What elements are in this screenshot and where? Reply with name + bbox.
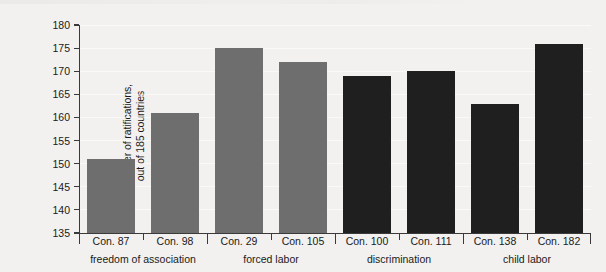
y-tick-label-175: 175 (52, 42, 70, 54)
y-tick-label-170: 170 (52, 65, 70, 77)
group-label-discrimination: discrimination (335, 253, 463, 265)
x-tick-label-con-29: Con. 29 (207, 235, 271, 247)
x-tick-label-con-111: Con. 111 (399, 235, 463, 247)
group-label-freedom-of-association: freedom of association (79, 253, 207, 265)
bar-con-111 (407, 71, 455, 233)
x-tick-label-con-98: Con. 98 (143, 235, 207, 247)
group-label-forced-labor: forced labor (207, 253, 335, 265)
y-tick-label-140: 140 (52, 204, 70, 216)
y-tick-label-165: 165 (52, 88, 70, 100)
y-tick-label-180: 180 (52, 19, 70, 31)
y-tick-label-155: 155 (52, 135, 70, 147)
x-axis-group-labels: freedom of associationforced labordiscri… (79, 253, 591, 269)
bar-chart-figure: number of ratifications, out of 185 coun… (0, 0, 606, 272)
x-tick-label-con-138: Con. 138 (463, 235, 527, 247)
bar-con-100 (343, 76, 391, 233)
bar-con-105 (279, 62, 327, 233)
bar-con-29 (215, 48, 263, 233)
bar-series (79, 25, 591, 233)
y-axis-title: number of ratifications, out of 185 coun… (14, 36, 58, 236)
bar-con-98 (151, 113, 199, 233)
y-tick-label-160: 160 (52, 111, 70, 123)
bar-con-87 (87, 159, 135, 233)
bar-con-182 (535, 44, 583, 234)
x-tick-label-con-105: Con. 105 (271, 235, 335, 247)
x-tick-label-con-182: Con. 182 (527, 235, 591, 247)
bar-con-138 (471, 104, 519, 233)
y-tick-label-150: 150 (52, 158, 70, 170)
x-tick-label-con-100: Con. 100 (335, 235, 399, 247)
plot-area: 135140145150155160165170175180 (79, 25, 591, 233)
y-tick-label-135: 135 (52, 227, 70, 239)
x-axis-tick-labels: Con. 87Con. 98Con. 29Con. 105Con. 100Con… (79, 235, 591, 251)
x-tick-label-con-87: Con. 87 (79, 235, 143, 247)
group-label-child-labor: child labor (463, 253, 591, 265)
scan-artifact (0, 0, 606, 4)
y-tick-label-145: 145 (52, 181, 70, 193)
